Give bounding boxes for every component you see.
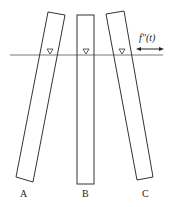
water-level-marker-c [119,49,125,54]
bar-label-a: A [20,188,28,199]
bar-label-b: B [82,188,89,199]
bar-label-c: C [142,188,149,199]
bar-b [77,15,94,184]
diagram-canvas: f″(t) A B C [0,0,169,207]
water-level-marker-b [83,49,89,54]
force-label: f″(t) [139,32,156,44]
bar-a [16,12,65,182]
double-arrow-icon [136,47,164,51]
water-level-marker-a [47,49,53,54]
